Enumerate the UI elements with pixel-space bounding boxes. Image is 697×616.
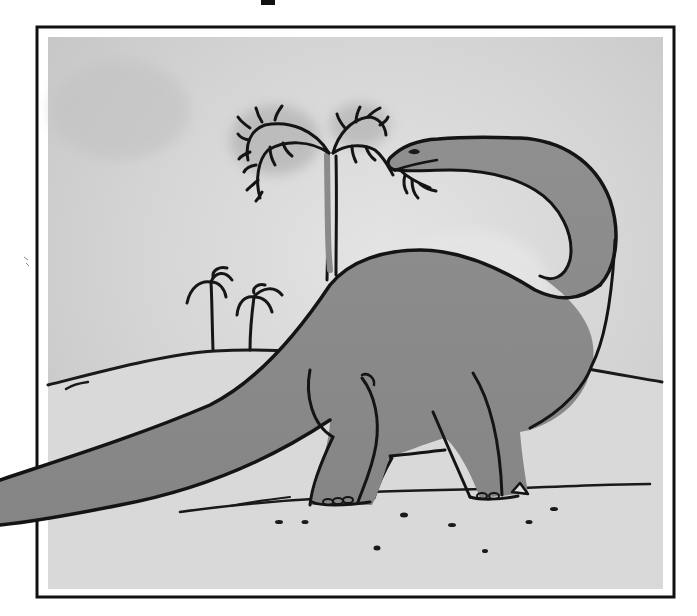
dinosaur-illustration [0,0,697,616]
top-mark [261,0,275,5]
illustration-canvas [0,0,697,616]
left-scratch-marks [24,257,29,266]
sky-dark-patch [50,60,190,160]
